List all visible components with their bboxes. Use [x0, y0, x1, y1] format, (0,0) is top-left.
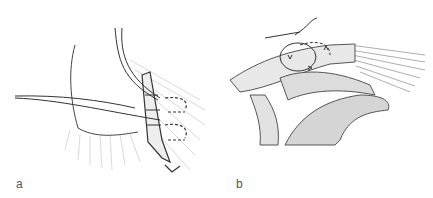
shoulder-anatomy-illustration — [220, 0, 433, 198]
panel-label-a: a — [16, 177, 23, 191]
suture-repair-illustration — [0, 0, 220, 198]
figure-panel-a: a — [0, 0, 220, 198]
figure-panel-b: b — [220, 0, 433, 198]
panel-label-b: b — [236, 177, 243, 191]
